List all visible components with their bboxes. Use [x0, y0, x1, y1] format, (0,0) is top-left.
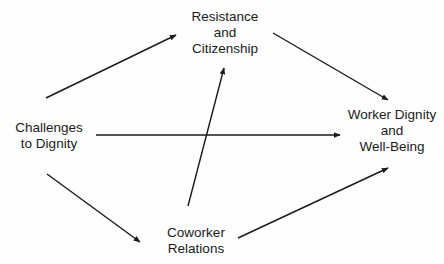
- arrow-challenges-to-resistance: [46, 35, 176, 98]
- node-worker-dignity-and-well-being: Worker Dignity and Well-Being: [340, 107, 444, 155]
- node-challenges-to-dignity: Challenges to Dignity: [4, 120, 94, 152]
- node-resistance-and-citizenship: Resistance and Citizenship: [180, 9, 270, 57]
- node-label-line: Well-Being: [340, 139, 444, 155]
- path-diagram: Resistance and Citizenship Challenges to…: [0, 0, 444, 264]
- node-label-line: Coworker: [156, 225, 236, 241]
- arrow-coworker-to-worker-dignity: [238, 168, 388, 238]
- arrow-challenges-to-coworker: [47, 174, 140, 242]
- arrow-coworker-to-resistance: [188, 68, 224, 206]
- node-coworker-relations: Coworker Relations: [156, 225, 236, 257]
- node-label-line: to Dignity: [4, 136, 94, 152]
- node-label-line: Resistance: [180, 9, 270, 25]
- arrow-resistance-to-worker-dignity: [273, 33, 388, 100]
- node-label-line: Challenges: [4, 120, 94, 136]
- node-label-line: Citizenship: [180, 41, 270, 57]
- node-label-line: and: [180, 25, 270, 41]
- node-label-line: and: [340, 123, 444, 139]
- node-label-line: Worker Dignity: [340, 107, 444, 123]
- node-label-line: Relations: [156, 241, 236, 257]
